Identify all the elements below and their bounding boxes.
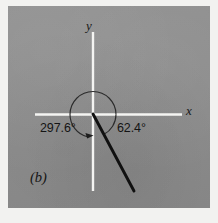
figure-part-label: (b) — [30, 170, 47, 185]
acute-angle-label: 62.4° — [117, 122, 146, 135]
y-axis-label: y — [86, 19, 92, 32]
reflex-angle-label: 297.6° — [40, 122, 76, 135]
acute-angle-arc — [104, 115, 116, 135]
angle-diagram-figure: y x 297.6° 62.4° (b) — [0, 0, 218, 223]
x-axis-label: x — [186, 104, 192, 117]
